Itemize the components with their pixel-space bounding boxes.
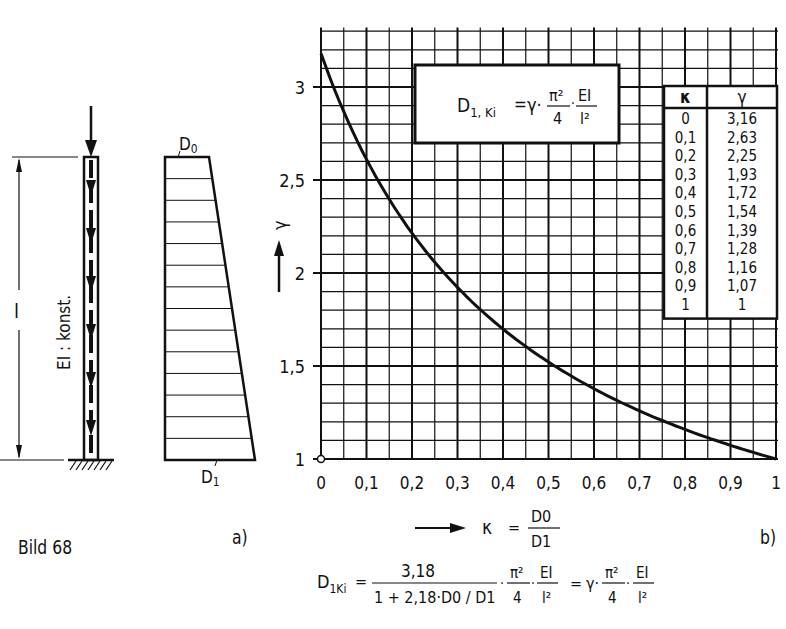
svg-text:D1: D1 xyxy=(531,532,551,551)
y-tick-label: 2,5 xyxy=(279,170,305,191)
svg-text:π²: π² xyxy=(549,86,563,105)
bottom-formula: D1Ki = 3,18 1 + 2,18·D0 / D1 · π² 4 · EI… xyxy=(317,561,654,607)
x-tick-label: 0,8 xyxy=(673,473,697,493)
svg-text:·: · xyxy=(626,575,630,591)
table-cell-kappa: 0,5 xyxy=(675,203,696,221)
svg-text:γ·: γ· xyxy=(527,94,542,115)
stiffness-label: EI : konst. xyxy=(54,295,74,370)
table-cell-gamma: 3,16 xyxy=(727,110,757,128)
y-tick-label: 3 xyxy=(295,77,305,98)
svg-text:κ: κ xyxy=(482,516,492,538)
y-axis-arrow-icon xyxy=(274,240,284,256)
svg-text:l²: l² xyxy=(580,109,590,128)
y-tick-label: 1,5 xyxy=(279,356,305,377)
depth-diagram xyxy=(165,151,255,466)
table-cell-kappa: 0,7 xyxy=(675,240,696,258)
x-tick-label: 0 xyxy=(316,473,326,493)
x-axis-definition: κ = D0 D1 xyxy=(415,507,560,551)
svg-text:4: 4 xyxy=(513,589,522,607)
d0-label: D0 xyxy=(179,134,198,156)
svg-text:π²: π² xyxy=(510,564,524,582)
x-tick-label: 0,2 xyxy=(400,473,424,493)
svg-text:·: · xyxy=(500,575,504,591)
svg-text:=: = xyxy=(514,94,527,114)
svg-text:γ·: γ· xyxy=(586,574,599,593)
svg-text:D1Ki: D1Ki xyxy=(317,571,346,596)
table-cell-kappa: 0 xyxy=(681,110,690,128)
x-tick-label: 0,4 xyxy=(491,473,515,493)
load-arrow-icon xyxy=(85,140,97,157)
svg-text:·: · xyxy=(531,575,535,591)
svg-text:=: = xyxy=(570,574,582,593)
x-tick-label: 0,1 xyxy=(354,473,378,493)
d1-label: D1 xyxy=(201,467,220,489)
table-cell-kappa: 0,6 xyxy=(675,222,696,240)
table-cell-kappa: 0,9 xyxy=(675,277,696,295)
svg-text:κ: κ xyxy=(680,87,691,107)
x-axis-ticks: 00,10,20,30,40,50,60,70,80,91 xyxy=(316,473,781,493)
table-cell-gamma: 2,25 xyxy=(727,147,757,165)
x-tick-label: 1 xyxy=(771,473,781,493)
svg-text:EI: EI xyxy=(578,86,591,105)
svg-text:=: = xyxy=(355,572,367,591)
table-cell-kappa: 0,2 xyxy=(675,147,696,165)
svg-text:4: 4 xyxy=(553,109,562,128)
table-cell-kappa: 0,4 xyxy=(675,184,696,202)
fixed-support-hatch-icon xyxy=(70,461,112,470)
figure-canvas: l EI : konst. D0 D1 11,522,53 00,10,20,3… xyxy=(0,0,786,629)
column-diagram xyxy=(0,106,114,470)
table-cell-gamma: 1,07 xyxy=(727,277,757,295)
table-cell-kappa: 0,3 xyxy=(675,166,696,184)
table-cell-gamma: 1,39 xyxy=(727,222,757,240)
svg-text:γ: γ xyxy=(737,87,746,107)
kappa-gamma-table: κγ03,160,12,630,22,250,31,930,41,720,51,… xyxy=(664,86,777,319)
x-tick-label: 0,5 xyxy=(536,473,560,493)
table-cell-kappa: 0,8 xyxy=(675,259,696,277)
svg-text:4: 4 xyxy=(608,589,617,607)
table-cell-gamma: 1,54 xyxy=(727,203,757,221)
x-tick-label: 0,3 xyxy=(445,473,469,493)
svg-text:D0: D0 xyxy=(531,507,551,526)
svg-text:l²: l² xyxy=(638,589,647,607)
part-b-label: b) xyxy=(760,525,776,549)
table-cell-kappa: 0,1 xyxy=(675,129,696,147)
table-cell-gamma: 1 xyxy=(738,296,747,314)
svg-text:·: · xyxy=(571,95,575,111)
table-cell-gamma: 2,63 xyxy=(727,129,757,147)
svg-text:3,18: 3,18 xyxy=(401,561,435,581)
length-label: l xyxy=(14,299,19,323)
svg-text:l²: l² xyxy=(542,589,551,607)
y-tick-label: 1 xyxy=(295,449,305,470)
table-cell-gamma: 1,72 xyxy=(727,184,757,202)
svg-text:π²: π² xyxy=(605,564,619,582)
svg-text:EI: EI xyxy=(540,564,553,582)
origin-marker xyxy=(318,456,325,463)
figure-caption: Bild 68 xyxy=(18,535,72,559)
table-cell-gamma: 1,28 xyxy=(727,240,757,258)
table-cell-gamma: 1,16 xyxy=(727,259,757,277)
svg-text:1 + 2,18·D0 / D1: 1 + 2,18·D0 / D1 xyxy=(374,588,495,607)
x-axis-arrow-icon xyxy=(450,523,466,533)
part-a-label: a) xyxy=(232,525,248,549)
svg-text:EI: EI xyxy=(636,564,649,582)
table-cell-gamma: 1,93 xyxy=(727,166,757,184)
table-cell-kappa: 1 xyxy=(681,296,690,314)
x-tick-label: 0,9 xyxy=(718,473,742,493)
y-axis-label: γ xyxy=(269,220,290,230)
y-axis-ticks: 11,522,53 xyxy=(279,77,305,470)
y-tick-label: 2 xyxy=(295,263,305,284)
svg-text:=: = xyxy=(508,518,520,537)
x-tick-label: 0,7 xyxy=(627,473,651,493)
x-tick-label: 0,6 xyxy=(582,473,606,493)
